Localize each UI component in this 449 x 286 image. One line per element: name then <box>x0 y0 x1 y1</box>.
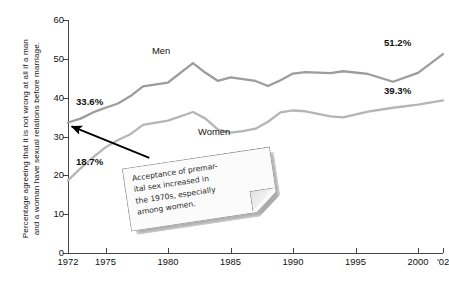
premarital-sex-line-chart: Percentage agreeing that it is not wrong… <box>0 0 449 286</box>
annotation-arrow <box>0 0 449 286</box>
